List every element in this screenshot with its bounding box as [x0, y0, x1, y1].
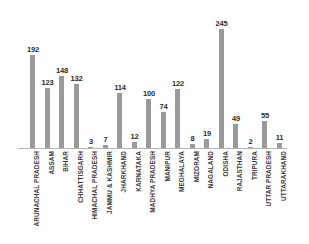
bar [30, 55, 35, 148]
bar [117, 93, 122, 148]
bar-group: 2TRIPURA [244, 0, 258, 244]
category-label: BIHAR [62, 151, 69, 172]
category-label: MADHYA PRADESH [149, 151, 156, 213]
category-label: MANIPUR [164, 151, 171, 182]
category-label: UTTAR PRADESH [265, 151, 272, 207]
bar-group: 114JHARKHAND [113, 0, 127, 244]
bar-group: 148BIHAR [55, 0, 69, 244]
bar-group: 3HIMACHAL PRADESH [84, 0, 98, 244]
bar [146, 99, 151, 148]
bar-group: 122MEGHALAYA [171, 0, 185, 244]
bar [248, 147, 253, 149]
bar [74, 84, 79, 148]
bar [233, 124, 238, 148]
category-label: RAJASTHAN [236, 151, 243, 191]
bar [59, 76, 64, 148]
bar-group: 132CHHATTISGARH [70, 0, 84, 244]
bar-value-label: 11 [268, 134, 292, 142]
bar [88, 147, 93, 149]
category-label: TRIPURA [251, 151, 258, 180]
category-label: KARNATAKA [135, 151, 142, 192]
bar [103, 145, 108, 148]
category-label: UTTARAKHAND [280, 151, 287, 201]
bar-group: 55UTTAR PRADESH [258, 0, 272, 244]
category-label: NAGALAND [207, 151, 214, 188]
category-label: JHARKHAND [120, 151, 127, 192]
bar-group: 192ARUNACHAL PRADESH [26, 0, 40, 244]
bar-group: 11UTTARAKHAND [273, 0, 287, 244]
category-label: MEGHALAYA [178, 151, 185, 192]
bar [45, 88, 50, 148]
category-label: ARUNACHAL PRADESH [33, 151, 40, 226]
bar [219, 29, 224, 148]
bar-group: 12KARNATAKA [128, 0, 142, 244]
bar-group: 49RAJASTHAN [229, 0, 243, 244]
bar-group: 100MADHYA PRADESH [142, 0, 156, 244]
category-label: CHHATTISGARH [77, 151, 84, 203]
bar [175, 89, 180, 148]
bar-group: 74MANIPUR [157, 0, 171, 244]
category-label: MIZORAM [193, 151, 200, 182]
category-label: HIMACHAL PRADESH [91, 151, 98, 220]
bar [132, 142, 137, 148]
category-label: ASSAM [48, 151, 55, 175]
bar [262, 121, 267, 148]
bar-group: 8MIZORAM [186, 0, 200, 244]
bar [161, 112, 166, 148]
bar-group: 123ASSAM [41, 0, 55, 244]
bar [204, 139, 209, 148]
bar [277, 143, 282, 148]
bar-group: 19NAGALAND [200, 0, 214, 244]
category-label: JAMMU & KASHMIR [106, 151, 113, 214]
plot-area: 192ARUNACHAL PRADESH123ASSAM148BIHAR132C… [0, 0, 309, 244]
bar-group: 7JAMMU & KASHMIR [99, 0, 113, 244]
bar-chart: 192ARUNACHAL PRADESH123ASSAM148BIHAR132C… [0, 0, 309, 244]
category-label: ODISHA [222, 151, 229, 176]
bar [190, 144, 195, 148]
